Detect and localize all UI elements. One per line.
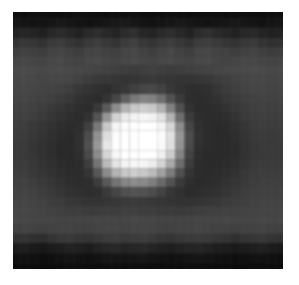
pixel-cell — [249, 56, 258, 65]
pixel-cell — [249, 262, 258, 269]
pixel-cell — [258, 225, 267, 234]
pixel-cell — [176, 159, 185, 168]
pixel-cell — [47, 38, 56, 47]
pixel-cell — [212, 12, 221, 19]
pixel-cell — [84, 66, 93, 75]
pixel-cell — [203, 253, 212, 262]
pixel-cell — [203, 103, 212, 112]
pixel-cell — [194, 12, 203, 19]
pixel-cell — [120, 206, 129, 215]
pixel-cell — [75, 38, 84, 47]
pixel-cell — [166, 197, 175, 206]
pixel-cell — [157, 131, 166, 140]
pixel-cell — [148, 178, 157, 187]
pixel-cell — [194, 197, 203, 206]
pixel-cell — [47, 75, 56, 84]
pixel-cell — [258, 75, 267, 84]
pixel-cell — [231, 187, 240, 196]
pixel-cell — [176, 56, 185, 65]
pixel-cell — [120, 178, 129, 187]
pixel-cell — [38, 262, 47, 269]
pixel-cell — [84, 12, 93, 19]
pixel-cell — [258, 262, 267, 269]
pixel-cell — [75, 131, 84, 140]
pixel-cell — [84, 234, 93, 243]
pixel-cell — [249, 197, 258, 206]
pixel-cell — [194, 215, 203, 224]
pixel-cell — [75, 19, 84, 28]
pixel-cell — [56, 197, 65, 206]
pixel-cell — [65, 112, 74, 121]
pixel-cell — [75, 206, 84, 215]
pixel-cell — [277, 112, 283, 121]
pixel-cell — [194, 38, 203, 47]
pixel-cell — [148, 66, 157, 75]
pixel-cell — [148, 84, 157, 93]
pixel-cell — [75, 84, 84, 93]
pixel-cell — [75, 243, 84, 252]
pixel-cell — [176, 94, 185, 103]
pixel-cell — [267, 262, 276, 269]
pixel-cell — [258, 253, 267, 262]
pixel-cell — [231, 94, 240, 103]
pixel-cell — [84, 150, 93, 159]
pixel-cell — [212, 38, 221, 47]
pixel-cell — [212, 150, 221, 159]
pixel-cell — [258, 197, 267, 206]
pixel-cell — [166, 141, 175, 150]
pixel-cell — [194, 75, 203, 84]
pixel-cell — [221, 225, 230, 234]
pixel-cell — [258, 47, 267, 56]
pixel-cell — [277, 19, 283, 28]
pixel-cell — [148, 234, 157, 243]
pixel-cell — [166, 225, 175, 234]
pixel-cell — [148, 12, 157, 19]
pixel-cell — [56, 19, 65, 28]
pixel-cell — [221, 215, 230, 224]
pixel-cell — [29, 178, 38, 187]
pixel-cell — [120, 262, 129, 269]
pixel-cell — [166, 112, 175, 121]
pixel-cell — [47, 197, 56, 206]
pixel-cell — [212, 131, 221, 140]
pixel-cell — [84, 112, 93, 121]
pixel-cell — [130, 150, 139, 159]
pixel-cell — [249, 178, 258, 187]
pixel-cell — [139, 38, 148, 47]
pixel-cell — [93, 112, 102, 121]
pixel-cell — [56, 169, 65, 178]
pixel-cell — [93, 131, 102, 140]
pixel-cell — [212, 103, 221, 112]
pixel-cell — [47, 84, 56, 93]
pixel-cell — [56, 243, 65, 252]
pixel-cell — [240, 169, 249, 178]
pixel-cell — [65, 122, 74, 131]
pixel-cell — [185, 103, 194, 112]
pixel-cell — [75, 234, 84, 243]
pixel-cell — [93, 169, 102, 178]
pixel-cell — [111, 253, 120, 262]
pixel-cell — [267, 234, 276, 243]
pixel-cell — [176, 47, 185, 56]
pixel-cell — [157, 94, 166, 103]
pixel-cell — [19, 234, 28, 243]
pixel-cell — [240, 187, 249, 196]
pixel-cell — [19, 187, 28, 196]
pixel-cell — [157, 19, 166, 28]
pixel-cell — [65, 84, 74, 93]
pixel-cell — [19, 12, 28, 19]
pixel-cell — [19, 47, 28, 56]
pixel-cell — [185, 150, 194, 159]
pixel-cell — [65, 197, 74, 206]
pixel-cell — [120, 94, 129, 103]
pixel-cell — [267, 56, 276, 65]
pixel-cell — [221, 234, 230, 243]
pixel-cell — [38, 19, 47, 28]
pixel-cell — [29, 159, 38, 168]
pixel-cell — [130, 253, 139, 262]
pixel-cell — [157, 112, 166, 121]
pixel-cell — [130, 19, 139, 28]
pixel-cell — [47, 159, 56, 168]
pixel-cell — [47, 225, 56, 234]
pixel-cell — [93, 243, 102, 252]
